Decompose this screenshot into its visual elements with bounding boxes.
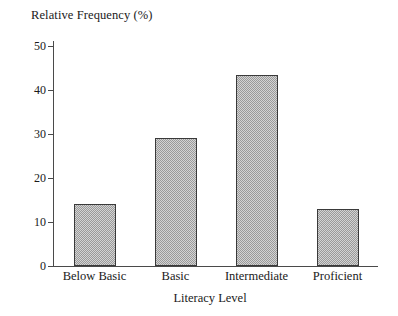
- y-tick-label: 0: [2, 260, 46, 272]
- y-tick-label-wrap: 50: [0, 46, 46, 47]
- y-tick-mark: [48, 266, 54, 267]
- y-tick-label: 40: [2, 84, 46, 96]
- category-label: Intermediate: [225, 270, 288, 283]
- y-tick-label: 20: [2, 172, 46, 184]
- x-axis-title-text: Literacy Level: [173, 291, 246, 305]
- y-tick-label-wrap: 40: [0, 90, 46, 91]
- y-tick-label: 30: [2, 128, 46, 140]
- y-tick-label-wrap: 0: [0, 266, 46, 267]
- y-tick-label-wrap: 30: [0, 134, 46, 135]
- y-axis-title: Relative Frequency (%): [31, 8, 153, 23]
- x-axis-title: Literacy Level: [0, 291, 398, 306]
- y-tick-label-wrap: 20: [0, 178, 46, 179]
- bar: [317, 209, 359, 266]
- bar: [236, 75, 278, 266]
- y-tick-label: 50: [2, 40, 46, 52]
- y-tick-label: 10: [2, 216, 46, 228]
- bar: [74, 204, 116, 266]
- category-label: Proficient: [313, 270, 362, 283]
- category-label: Below Basic: [63, 270, 127, 283]
- category-label: Basic: [162, 270, 190, 283]
- bar-chart: Relative Frequency (%) 01020304050 Below…: [0, 0, 398, 316]
- y-tick-label-wrap: 10: [0, 222, 46, 223]
- plot-area: [54, 41, 378, 266]
- bar: [155, 138, 197, 266]
- x-axis-line: [54, 266, 378, 267]
